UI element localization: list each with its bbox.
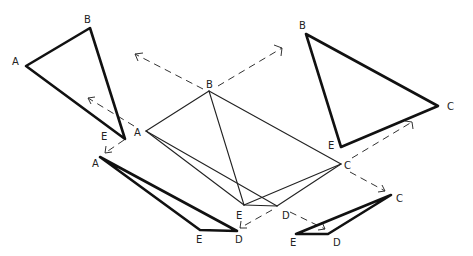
arrow-B-upper-right (218, 48, 282, 86)
label-face-CED-E: E (290, 237, 296, 248)
label-face-ABE-A: A (12, 56, 19, 67)
arrowhead (274, 45, 282, 56)
label-center-B: B (206, 79, 213, 90)
label-face-CED-C: C (396, 193, 403, 204)
arrow-D-lower-right (290, 212, 325, 229)
face-BCE (306, 34, 438, 147)
label-face-ABE-B: B (84, 14, 91, 25)
label-face-BCE-E: E (328, 140, 334, 151)
center-pyramid (146, 91, 341, 206)
edge-CE (244, 164, 341, 205)
edge-AB (146, 91, 209, 131)
label-face-BCE-B: B (299, 20, 306, 31)
face-ABE (26, 28, 125, 139)
diagram-canvas: A B E B C E A E D C E D A B C D E (0, 0, 473, 256)
edge-BE (209, 91, 244, 205)
label-center-A: A (134, 127, 141, 138)
label-face-AED-E: E (196, 234, 202, 245)
arrow-B-upper-left (135, 54, 203, 89)
edge-ED (244, 205, 277, 206)
arrowhead (135, 53, 143, 61)
arrow-C-upper-right (352, 122, 412, 158)
label-face-ABE-E: E (101, 131, 107, 142)
label-center-D: D (282, 210, 290, 221)
label-face-AED-A: A (92, 158, 99, 169)
arrow-C-lower-right (350, 172, 385, 191)
label-face-AED-D: D (235, 234, 243, 245)
arrow-A-upper-left (88, 98, 134, 126)
edge-CD (277, 164, 341, 206)
pyramid-net-diagram: A B E B C E A E D C E D A B C D E (0, 0, 473, 256)
label-center-E: E (236, 210, 242, 221)
label-face-CED-D: D (333, 237, 341, 248)
arrow-A-lower-left (105, 140, 124, 153)
edge-AD (146, 131, 277, 206)
label-face-BCE-C: C (447, 101, 454, 112)
arrowhead (378, 185, 385, 192)
edge-BC (209, 91, 341, 164)
label-center-C: C (344, 160, 351, 171)
edge-AE (146, 131, 244, 205)
face-CED (296, 195, 391, 234)
face-AED (100, 157, 237, 231)
arrow-D-lower-left (240, 210, 272, 228)
